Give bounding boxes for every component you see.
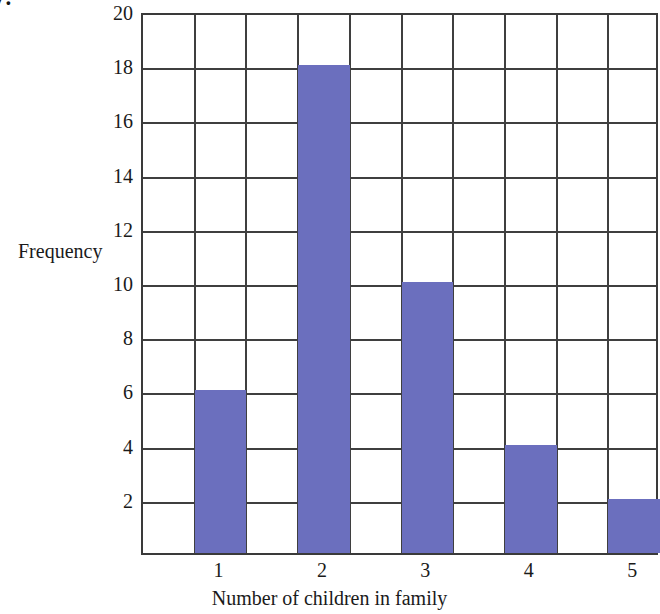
y-tick-label: 4 bbox=[73, 437, 133, 457]
y-tick-label: 6 bbox=[73, 382, 133, 402]
bar bbox=[505, 445, 557, 553]
x-axis-title: Number of children in family bbox=[0, 588, 659, 608]
y-tick-label: 12 bbox=[73, 220, 133, 240]
x-tick-label: 3 bbox=[420, 560, 430, 580]
y-tick-label: 18 bbox=[73, 57, 133, 77]
y-tick-label: 10 bbox=[73, 274, 133, 294]
y-tick-label: 14 bbox=[73, 166, 133, 186]
bars-group bbox=[143, 15, 656, 553]
plot-area bbox=[141, 13, 658, 555]
y-tick-label: 20 bbox=[73, 3, 133, 23]
y-tick-label: 16 bbox=[73, 111, 133, 131]
x-tick-label: 5 bbox=[627, 560, 637, 580]
bar bbox=[402, 282, 454, 553]
y-axis-tick-labels: 2018161412108642 bbox=[63, 13, 133, 555]
x-tick-label: 1 bbox=[214, 560, 224, 580]
bar bbox=[608, 499, 660, 553]
x-axis-tick-labels: 12345 bbox=[141, 560, 658, 590]
y-tick-label: 2 bbox=[73, 491, 133, 511]
question-number: 7. bbox=[0, 0, 11, 9]
x-tick-label: 4 bbox=[524, 560, 534, 580]
bar bbox=[195, 390, 247, 553]
y-tick-label: 8 bbox=[73, 328, 133, 348]
bar bbox=[298, 65, 350, 553]
x-tick-label: 2 bbox=[317, 560, 327, 580]
